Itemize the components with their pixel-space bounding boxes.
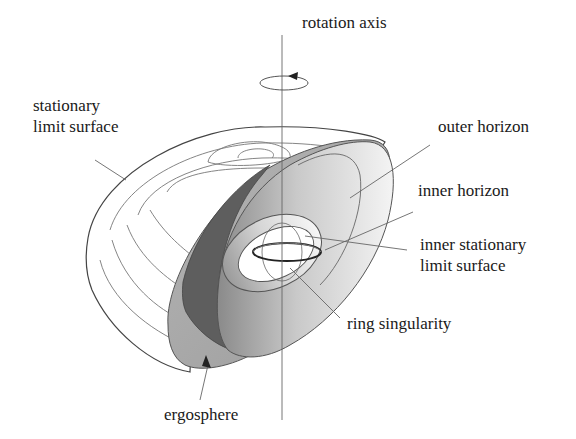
label-inner-stationary-limit-surface: inner stationary limit surface: [420, 234, 526, 276]
label-outer-horizon: outer horizon: [438, 116, 529, 137]
rotation-arrow-icon: [260, 72, 308, 90]
label-rotation-axis: rotation axis: [302, 12, 387, 33]
label-ring-singularity: ring singularity: [347, 313, 451, 334]
label-stationary-limit-surface: stationary limit surface: [33, 95, 118, 137]
kerr-black-hole-diagram: [0, 0, 576, 439]
label-ergosphere: ergosphere: [164, 404, 238, 425]
label-inner-horizon: inner horizon: [418, 180, 509, 201]
